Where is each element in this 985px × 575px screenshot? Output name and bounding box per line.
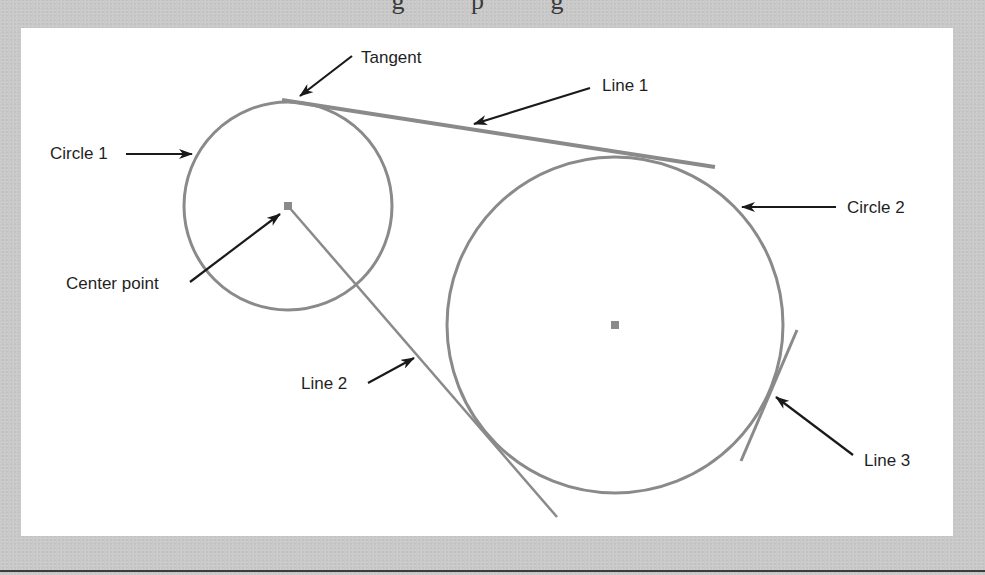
label-circle-1: Circle 1 (50, 144, 108, 164)
line3-arrow-icon (776, 397, 853, 455)
label-line-2: Line 2 (301, 374, 347, 394)
center-point-marker-2 (611, 321, 619, 329)
center-point-marker-1 (284, 202, 292, 210)
bottom-rule (0, 570, 985, 572)
line-2 (288, 206, 557, 517)
label-center-point: Center point (66, 274, 159, 294)
line2-arrow-icon (368, 358, 414, 383)
label-circle-2: Circle 2 (847, 198, 905, 218)
tangent-arrow-icon (300, 56, 352, 96)
label-line-1: Line 1 (602, 76, 648, 96)
line-3 (741, 330, 797, 461)
label-line-3: Line 3 (864, 451, 910, 471)
label-tangent: Tangent (361, 48, 422, 68)
line-1 (282, 100, 715, 167)
line1-arrow-icon (474, 88, 590, 124)
center-point-arrow-icon (190, 214, 280, 282)
